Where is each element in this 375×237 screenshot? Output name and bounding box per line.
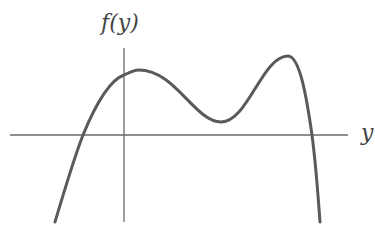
vertical-axis-label: f(y): [101, 12, 139, 34]
function-graph: [0, 0, 375, 237]
function-curve: [55, 56, 320, 222]
horizontal-axis-label: y: [361, 122, 373, 144]
